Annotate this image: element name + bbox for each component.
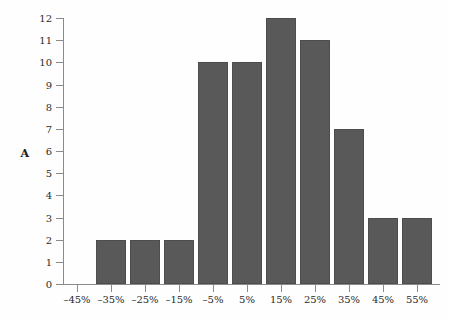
y-axis-tick-label: 6 (6, 146, 52, 157)
y-axis-tick (56, 173, 63, 174)
bar (130, 240, 160, 284)
y-axis-tick (56, 107, 63, 108)
x-axis-tick (349, 285, 350, 292)
bar (96, 240, 126, 284)
y-axis-tick (56, 85, 63, 86)
y-axis-tick (56, 284, 63, 285)
y-axis-tick (56, 240, 63, 241)
y-axis-tick (56, 151, 63, 152)
y-axis-tick-label: 8 (6, 101, 52, 112)
bar (164, 240, 194, 284)
bar (300, 40, 330, 284)
y-axis-tick-label: 9 (6, 79, 52, 90)
y-axis-tick-label: 0 (6, 279, 52, 290)
x-axis-tick (247, 285, 248, 292)
plot-area (63, 18, 439, 284)
x-axis-tick (383, 285, 384, 292)
y-axis-tick-label: 11 (6, 35, 52, 46)
y-axis-tick (56, 129, 63, 130)
x-axis-tick (315, 285, 316, 292)
x-axis-tick (281, 285, 282, 292)
y-axis-tick (56, 40, 63, 41)
y-axis-tick (56, 218, 63, 219)
x-axis-tick-label: 55% (395, 294, 439, 305)
bar (266, 18, 296, 284)
bar (402, 218, 432, 285)
y-axis-tick-label: 2 (6, 234, 52, 245)
y-axis-tick-label: 5 (6, 168, 52, 179)
y-axis-tick (56, 62, 63, 63)
x-axis-tick (179, 285, 180, 292)
y-axis-tick (56, 262, 63, 263)
y-axis-tick-label: 7 (6, 123, 52, 134)
y-axis-tick-label: 1 (6, 256, 52, 267)
y-axis-tick (56, 195, 63, 196)
y-axis-tick-label: 12 (6, 13, 52, 24)
x-axis-tick (111, 285, 112, 292)
x-axis-tick (77, 285, 78, 292)
bar (232, 62, 262, 284)
y-axis-tick-label: 10 (6, 57, 52, 68)
y-axis-tick-label: 3 (6, 212, 52, 223)
y-axis-tick-label: 4 (6, 190, 52, 201)
bar (368, 218, 398, 285)
bar (198, 62, 228, 284)
y-axis-tick (56, 18, 63, 19)
x-axis-tick (417, 285, 418, 292)
bar-chart: A 0123456789101112 –45%–35%–25%–15%–5%5%… (0, 0, 449, 322)
x-axis-tick (145, 285, 146, 292)
x-axis-tick (213, 285, 214, 292)
bar (334, 129, 364, 284)
